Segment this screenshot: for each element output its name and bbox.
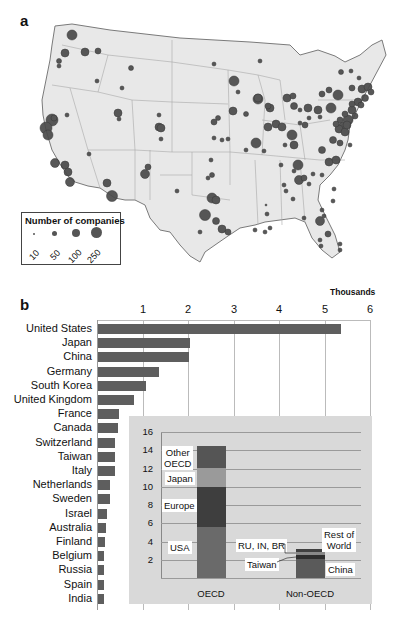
- category-non-oecd: Non-OECD: [286, 588, 334, 599]
- category-oecd: OECD: [197, 588, 224, 599]
- bar-russia: [98, 565, 104, 575]
- legend-value-250: 250: [85, 247, 103, 265]
- country-label: China: [63, 350, 92, 362]
- bar-spain: [98, 580, 104, 590]
- country-label: Taiwan: [58, 450, 92, 462]
- country-label: France: [58, 407, 92, 419]
- country-label: Japan: [62, 336, 92, 348]
- country-label: United States: [26, 322, 92, 334]
- country-label: United Kingdom: [14, 393, 92, 405]
- bar-france: [98, 409, 119, 419]
- legend-title: Number of companies: [25, 215, 125, 226]
- legend-value-10: 10: [27, 248, 41, 262]
- country-label: India: [68, 592, 92, 604]
- country-label: Germany: [47, 365, 92, 377]
- bar-taiwan: [98, 452, 115, 462]
- legend-dot-10: [33, 233, 35, 235]
- country-label: Israel: [65, 507, 92, 519]
- legend-dot-250: [91, 227, 102, 238]
- legend-value-100: 100: [66, 247, 84, 265]
- bar-sweden: [98, 494, 110, 504]
- bar-australia: [98, 523, 106, 533]
- country-label: South Korea: [31, 379, 92, 391]
- bar-netherlands: [98, 480, 110, 490]
- country-label: Canada: [53, 421, 92, 433]
- country-label: Sweden: [52, 492, 92, 504]
- us-map-panel: a: [0, 0, 404, 280]
- axis-unit-label: Thousands: [330, 287, 375, 297]
- x-tick-2: 2: [185, 303, 191, 315]
- bar-israel: [98, 509, 107, 519]
- x-tick-4: 4: [276, 303, 282, 315]
- x-tick-3: 3: [231, 303, 237, 315]
- legend-value-50: 50: [48, 248, 62, 262]
- country-label: Switzerland: [35, 436, 92, 448]
- country-label: Belgium: [52, 549, 92, 561]
- bar-germany: [98, 367, 159, 377]
- country-label: Italy: [72, 464, 92, 476]
- bar-italy: [98, 466, 115, 476]
- x-tick-5: 5: [322, 303, 328, 315]
- bar-switzerland: [98, 438, 115, 448]
- country-label: Spain: [64, 578, 92, 590]
- map-legend: Number of companies 10 50 100 250: [21, 212, 121, 265]
- bar-japan: [98, 338, 190, 348]
- inset-stacked-chart: 161412108642 OtherOECD Japan Europe USA …: [129, 416, 372, 604]
- x-tick-6: 6: [367, 303, 373, 315]
- panel-b-label: b: [20, 296, 29, 313]
- legend-dot-100: [72, 229, 80, 237]
- country-label: Finland: [56, 535, 92, 547]
- legend-dot-50: [52, 231, 57, 236]
- leader-lines: [129, 416, 372, 604]
- bar-india: [98, 594, 104, 604]
- bar-canada: [98, 423, 118, 433]
- x-tick-1: 1: [140, 303, 146, 315]
- bar-belgium: [98, 551, 104, 561]
- country-label: Russia: [58, 563, 92, 575]
- bar-south-korea: [98, 381, 146, 391]
- country-label: Netherlands: [33, 478, 92, 490]
- country-label: Australia: [49, 521, 92, 533]
- bar-united-states: [98, 324, 341, 334]
- bar-china: [98, 352, 189, 362]
- bar-finland: [98, 537, 105, 547]
- bar-united-kingdom: [98, 395, 134, 405]
